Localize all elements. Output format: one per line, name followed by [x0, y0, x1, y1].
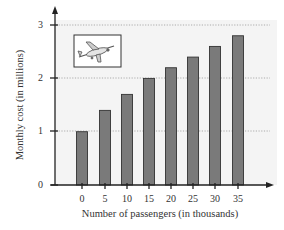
- bar-30: [210, 46, 221, 185]
- y-tick-label: 3: [38, 19, 43, 30]
- y-tick-label: 2: [38, 72, 43, 83]
- bar-15: [144, 78, 155, 185]
- bar-5: [100, 110, 111, 185]
- x-tick-label: 0: [80, 193, 85, 204]
- bar-0: [77, 132, 88, 185]
- x-tick-label: 20: [166, 193, 176, 204]
- bar-35: [233, 36, 244, 185]
- bar-20: [166, 68, 177, 185]
- y-axis-arrow-icon: [52, 6, 58, 14]
- x-tick-label: 30: [210, 193, 220, 204]
- bar-chart: 0 1 2 3 0 5 10 15 20 25 30 35 Number of …: [0, 0, 284, 230]
- x-tick-label: 25: [188, 193, 198, 204]
- y-axis-title: Monthly cost (in millions): [14, 49, 26, 160]
- x-tick-label: 10: [122, 193, 132, 204]
- x-tick-label: 35: [233, 193, 243, 204]
- bar-25: [188, 57, 199, 185]
- bar-10: [122, 94, 133, 185]
- x-tick-label: 5: [103, 193, 108, 204]
- y-tick-label: 1: [38, 125, 43, 136]
- x-axis-title: Number of passengers (in thousands): [82, 208, 239, 220]
- x-tick-label: 15: [144, 193, 154, 204]
- airplane-inset: [74, 35, 121, 67]
- y-tick-label: 0: [38, 179, 43, 190]
